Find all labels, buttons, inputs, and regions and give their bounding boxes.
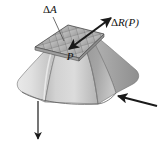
delta-area-label-symbol: A — [49, 3, 57, 15]
side-reaction-arrow — [118, 96, 157, 106]
delta-area-label-delta: Δ — [43, 3, 50, 15]
resultant-force-label-delta: Δ — [111, 16, 118, 28]
point-p-label: P — [66, 50, 74, 62]
resultant-force-label-argument: (P) — [125, 16, 139, 29]
delta-area-label: ΔA — [43, 3, 57, 15]
figure-svg: ΔA ΔR(P) P — [0, 0, 159, 145]
figure-container: ΔA ΔR(P) P — [0, 0, 159, 145]
resultant-force-label: ΔR(P) — [111, 16, 139, 29]
